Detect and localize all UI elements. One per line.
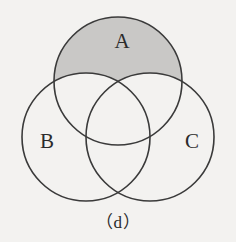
set-label-a: A [114, 29, 130, 53]
venn-diagram-canvas: A B C [0, 0, 236, 242]
figure-caption: （d） [0, 208, 236, 233]
set-label-c: C [185, 129, 199, 153]
set-label-b: B [40, 129, 54, 153]
venn-diagram-figure: A B C （d） [0, 0, 236, 242]
